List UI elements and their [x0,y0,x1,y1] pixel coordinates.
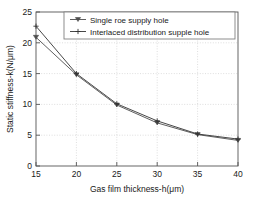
chart-figure: 0 5 10 15 20 25 15 20 25 30 35 40 Gas fi… [0,0,255,204]
legend-label-1: Single roe supply hole [90,16,169,25]
legend-entry-interlaced-distribution-supple-hole[interactable]: Interlaced distribution supple hole [70,28,210,37]
legend-label-2: Interlaced distribution supple hole [90,28,210,37]
x-tick-label-15: 15 [31,169,41,179]
x-tick-label-20: 20 [72,169,82,179]
y-tick-label-20: 20 [23,38,33,48]
x-tick-label-25: 25 [112,169,122,179]
y-tick-label-5: 5 [27,130,32,140]
x-axis-title: Gas film thickness-h(μm) [90,184,184,194]
y-axis-title: Static stiffness-k(N/μm) [5,45,15,133]
x-tick-label-40: 40 [233,169,243,179]
static-stiffness-line-chart: 0 5 10 15 20 25 15 20 25 30 35 40 Gas fi… [0,0,255,204]
y-tick-label-15: 15 [23,69,33,79]
y-tick-label-25: 25 [23,7,33,17]
chart-legend[interactable]: Single roe supply hole Interlaced distri… [64,12,235,39]
x-tick-label-30: 30 [152,169,162,179]
x-tick-label-35: 35 [193,169,203,179]
y-tick-label-10: 10 [23,99,33,109]
